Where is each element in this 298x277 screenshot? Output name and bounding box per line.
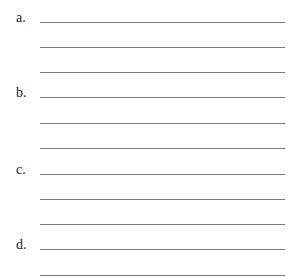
answer-line[interactable]	[40, 199, 285, 200]
answer-line[interactable]	[40, 97, 285, 98]
item-label-a: a.	[16, 11, 26, 25]
answer-line[interactable]	[40, 249, 285, 250]
item-label-d: d.	[16, 238, 27, 252]
answer-line[interactable]	[40, 275, 285, 276]
answer-line[interactable]	[40, 22, 285, 23]
item-label-c: c.	[16, 163, 26, 177]
answer-line[interactable]	[40, 47, 285, 48]
answer-line[interactable]	[40, 123, 285, 124]
answer-line[interactable]	[40, 224, 285, 225]
answer-line[interactable]	[40, 72, 285, 73]
answer-line[interactable]	[40, 148, 285, 149]
answer-line[interactable]	[40, 174, 285, 175]
item-label-b: b.	[16, 86, 27, 100]
